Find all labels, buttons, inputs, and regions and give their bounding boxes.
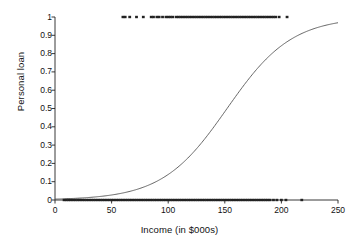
x-axis-tick-label: 150 bbox=[205, 206, 245, 215]
data-point-marker bbox=[171, 16, 174, 18]
data-point-marker bbox=[161, 16, 164, 18]
x-axis-tick-label: 250 bbox=[318, 206, 358, 215]
data-point-marker bbox=[300, 199, 303, 201]
logistic-curve bbox=[55, 23, 338, 199]
data-point-marker bbox=[278, 16, 281, 18]
x-axis-tick-label: 0 bbox=[35, 206, 75, 215]
scatter-row-loan-no bbox=[63, 199, 304, 201]
data-point-marker bbox=[269, 199, 272, 201]
data-point-marker bbox=[274, 16, 277, 18]
data-point-marker bbox=[152, 16, 155, 18]
data-point-marker bbox=[142, 16, 145, 18]
data-point-marker bbox=[124, 16, 127, 18]
data-point-marker bbox=[272, 199, 275, 201]
x-axis-title: Income (in $000s) bbox=[0, 224, 359, 235]
logistic-regression-chart: Personal loan 00.10.20.30.40.50.60.70.80… bbox=[0, 0, 359, 246]
data-point-marker bbox=[135, 16, 138, 18]
x-axis-tick-label: 100 bbox=[148, 206, 188, 215]
data-point-marker bbox=[285, 199, 288, 201]
x-axis-tick-label: 50 bbox=[92, 206, 132, 215]
data-point-marker bbox=[128, 16, 131, 18]
data-point-marker bbox=[275, 199, 278, 201]
data-point-marker bbox=[286, 16, 289, 18]
data-point-marker bbox=[158, 16, 161, 18]
x-axis-tick-label: 200 bbox=[261, 206, 301, 215]
scatter-row-loan-yes bbox=[122, 16, 289, 18]
data-point-marker bbox=[280, 199, 283, 201]
